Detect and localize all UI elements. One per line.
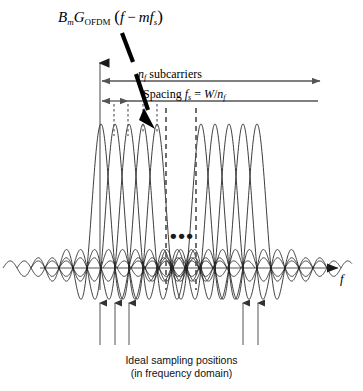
- subcarrier-curve: [45, 124, 241, 299]
- subcarrier-curve: [31, 124, 227, 299]
- caption-line-1: Ideal sampling positions: [0, 354, 363, 367]
- subcarrier-curve: [59, 124, 255, 299]
- formula-f1: f: [120, 9, 124, 25]
- ellipsis-dots: •••: [170, 225, 194, 247]
- subcarrier-curve: [3, 124, 199, 299]
- formula-g-sub: OFDM: [85, 17, 111, 27]
- figure-caption: Ideal sampling positions (in frequency d…: [0, 354, 363, 380]
- subcarrier-curve: [131, 124, 327, 299]
- sampling-position-arrows: [100, 303, 258, 345]
- spacing-label: Spacing fs = W/nf: [143, 88, 226, 102]
- formula-g: G: [74, 9, 85, 25]
- spacing-w: W: [204, 87, 214, 101]
- subcarrier-curve: [145, 124, 341, 299]
- subcarrier-curve: [117, 124, 313, 299]
- formula-label: BmGOFDM (f − mfs): [58, 8, 163, 27]
- spacing-eq: =: [191, 87, 204, 101]
- frequency-axis-label: f: [340, 272, 344, 285]
- subcarrier-curve: [103, 124, 299, 299]
- formula-minus: −: [127, 9, 135, 25]
- caption-line-2: (in frequency domain): [0, 367, 363, 380]
- formula-b: B: [58, 9, 67, 25]
- spacing-word: Spacing: [143, 87, 185, 101]
- formula-m: m: [139, 9, 150, 25]
- spacing-n-sub: f: [223, 93, 225, 102]
- subcarriers-count-label: nf subcarriers: [138, 68, 202, 82]
- ofdm-spectrum-figure: [0, 0, 363, 391]
- subcarrier-curve: [17, 124, 213, 299]
- subcarrier-sinc-curves: [3, 124, 352, 299]
- spacing-tick-dotted-lines: [114, 104, 157, 136]
- formula-close-paren: ): [157, 7, 163, 26]
- subcarriers-word: subcarriers: [146, 67, 202, 81]
